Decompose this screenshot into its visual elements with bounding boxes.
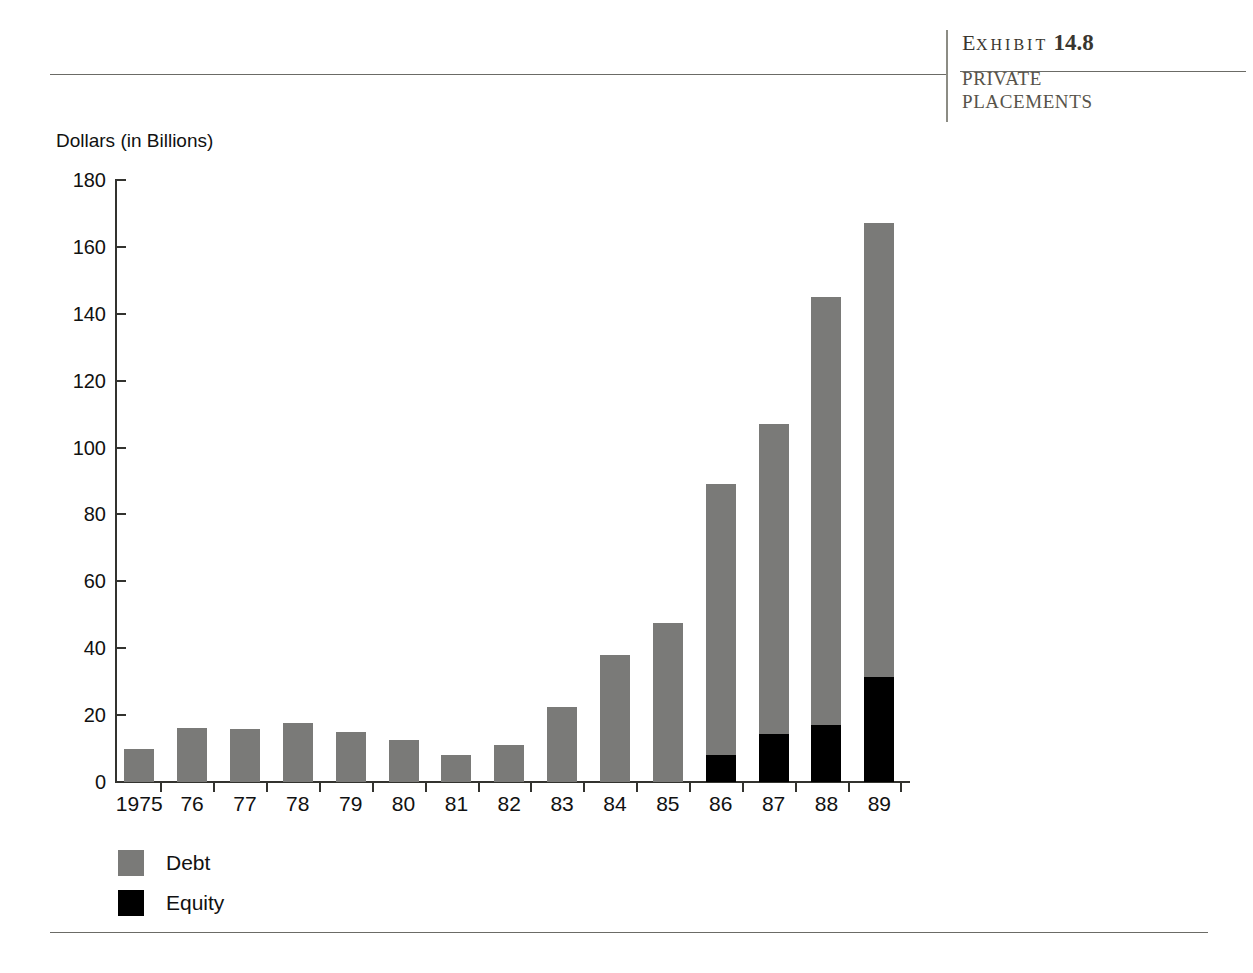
bar-segment-equity: [864, 677, 894, 782]
bar-segment-equity: [706, 755, 736, 782]
x-axis-tick-mark: [530, 781, 532, 792]
bar-chart: 020406080100120140160180 197576777879808…: [0, 0, 1253, 973]
x-axis-tick-mark: [319, 781, 321, 792]
bar-group: [441, 755, 471, 782]
x-axis-tick-label: 85: [656, 792, 679, 816]
y-axis-line: [115, 180, 117, 782]
bar-group: [706, 484, 736, 782]
bar-segment-debt: [124, 749, 154, 782]
bar-segment-debt: [230, 729, 260, 782]
x-axis-tick-label: 84: [603, 792, 626, 816]
legend-label: Equity: [166, 891, 224, 915]
x-axis-tick-label: 87: [762, 792, 785, 816]
y-axis-tick-label: 140: [46, 302, 106, 325]
x-axis-tick-label: 88: [815, 792, 838, 816]
bar-group: [389, 740, 419, 782]
x-axis-tick-label: 81: [445, 792, 468, 816]
bar-segment-debt: [441, 755, 471, 782]
bar-segment-debt: [336, 732, 366, 782]
bar-segment-debt: [283, 723, 313, 782]
x-axis-tick-label: 76: [180, 792, 203, 816]
x-axis-tick-mark: [689, 781, 691, 792]
x-axis-tick-mark: [583, 781, 585, 792]
bar-group: [600, 655, 630, 782]
bar-group: [864, 223, 894, 782]
x-axis-tick-mark: [742, 781, 744, 792]
footer-divider-rule: [50, 932, 1208, 933]
y-axis-tick-label: 60: [46, 570, 106, 593]
bar-group: [759, 424, 789, 782]
x-axis-tick-mark: [266, 781, 268, 792]
legend-item: Debt: [118, 846, 224, 880]
bar-segment-debt: [864, 223, 894, 676]
x-axis-tick-label: 78: [286, 792, 309, 816]
x-axis-tick-mark: [372, 781, 374, 792]
x-axis-tick-label: 1975: [116, 792, 163, 816]
x-axis-tick-mark: [478, 781, 480, 792]
bar-group: [177, 728, 207, 782]
y-axis-tick-label: 180: [46, 169, 106, 192]
bar-segment-debt: [547, 707, 577, 782]
x-axis-tick-label: 86: [709, 792, 732, 816]
legend-item: Equity: [118, 886, 224, 920]
chart-legend: DebtEquity: [118, 846, 224, 926]
x-axis-tick-mark: [160, 781, 162, 792]
y-axis-tick-label: 80: [46, 503, 106, 526]
bar-segment-equity: [759, 734, 789, 782]
x-axis-tick-label: 80: [392, 792, 415, 816]
bar-group: [653, 623, 683, 782]
bar-segment-debt: [811, 297, 841, 725]
bar-segment-debt: [494, 745, 524, 782]
x-axis-tick-label: 83: [550, 792, 573, 816]
bar-group: [283, 723, 313, 782]
legend-swatch: [118, 890, 144, 916]
x-axis-tick-mark: [900, 781, 902, 792]
bar-segment-debt: [653, 623, 683, 782]
bar-segment-debt: [600, 655, 630, 782]
bar-segment-debt: [389, 740, 419, 782]
legend-swatch: [118, 850, 144, 876]
bar-group: [547, 707, 577, 782]
y-axis-tick-label: 160: [46, 235, 106, 258]
bar-segment-equity: [811, 725, 841, 782]
x-axis-tick-label: 79: [339, 792, 362, 816]
y-axis-tick-label: 120: [46, 369, 106, 392]
x-axis-tick-mark: [636, 781, 638, 792]
bar-segment-debt: [759, 424, 789, 733]
bar-group: [124, 749, 154, 782]
x-axis-tick-label: 89: [868, 792, 891, 816]
bar-group: [811, 297, 841, 782]
y-axis-tick-label: 40: [46, 637, 106, 660]
legend-label: Debt: [166, 851, 210, 875]
bar-segment-debt: [177, 728, 207, 782]
y-axis-tick-label: 100: [46, 436, 106, 459]
x-axis-tick-mark: [848, 781, 850, 792]
bar-segment-debt: [706, 484, 736, 755]
x-axis-tick-mark: [795, 781, 797, 792]
x-axis-tick-label: 77: [233, 792, 256, 816]
y-axis-tick-label: 20: [46, 704, 106, 727]
x-axis-tick-mark: [213, 781, 215, 792]
y-axis-tick-label: 0: [46, 771, 106, 794]
y-axis-tick-labels: 020406080100120140160180: [46, 0, 106, 973]
x-axis-tick-mark: [425, 781, 427, 792]
bar-group: [230, 729, 260, 782]
bar-group: [494, 745, 524, 782]
x-axis-tick-label: 82: [498, 792, 521, 816]
bar-group: [336, 732, 366, 782]
